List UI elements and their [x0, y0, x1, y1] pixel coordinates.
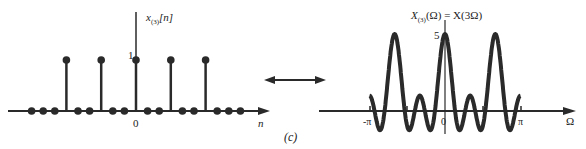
figure-canvas [0, 0, 586, 149]
spectrum-plot [319, 20, 576, 134]
discrete-signal-plot [8, 12, 270, 115]
panel-label: (c) [284, 131, 297, 143]
impulse-stems [63, 56, 210, 111]
tick-zero: 0 [441, 117, 446, 127]
peak-label: 5 [434, 30, 440, 41]
tick-neg-pi: -π [363, 117, 371, 127]
right-xlabel: Ω [566, 116, 574, 127]
left-y-tick: 1 [128, 50, 134, 61]
right-title: X(3)(Ω) = X(3Ω) [411, 10, 482, 24]
transform-pair-arrow [264, 76, 326, 84]
omega-axis-arrowhead [563, 107, 576, 115]
n-axis-arrowhead [258, 107, 270, 115]
left-x-origin: 0 [133, 118, 139, 129]
tick-pi: π [518, 117, 523, 127]
left-ylabel: x(3)[n] [146, 12, 173, 26]
left-xlabel: n [258, 118, 264, 129]
